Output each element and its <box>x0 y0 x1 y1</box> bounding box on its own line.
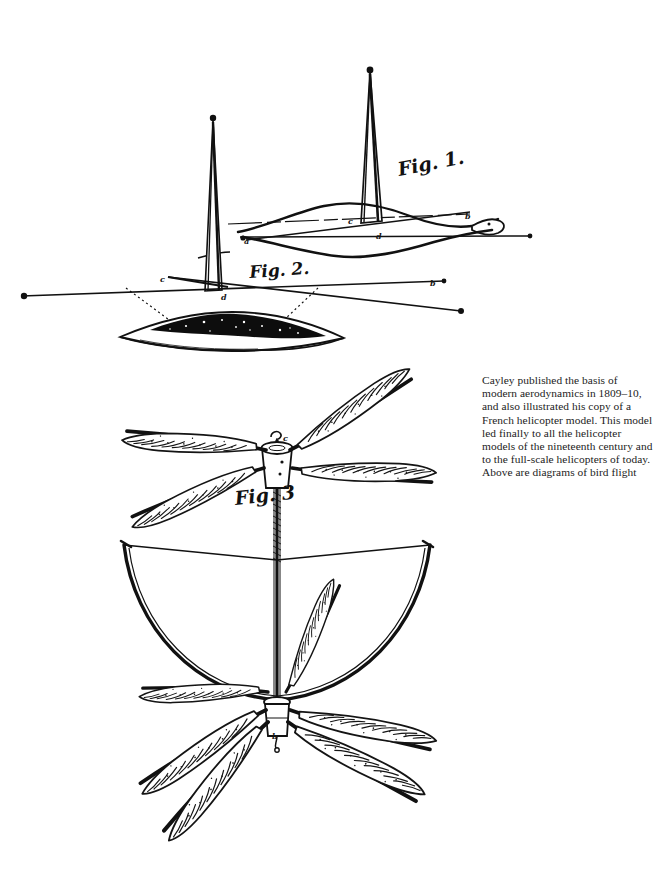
figure-1-group <box>198 67 532 258</box>
figure-2-label: Fig. 2. <box>249 258 310 282</box>
caption-text: Cayley published the basis of modern aer… <box>482 374 654 480</box>
point-label-fig1-a: a <box>244 236 249 246</box>
point-label-fig1-d: d <box>376 231 382 241</box>
fig2-spire-left <box>205 115 222 291</box>
fig1-spire-right <box>361 67 382 223</box>
point-label-fig2-b: b <box>430 278 436 288</box>
point-label-fig2-c: c <box>160 274 165 284</box>
figure-2-group <box>21 115 464 351</box>
plate-page: Fig. 1. Fig. 2. Fig. 3 abcdcbdcb Cayley … <box>0 0 668 896</box>
point-label-fig1-c: c <box>348 216 353 226</box>
point-label-fig1-b: b <box>465 211 471 221</box>
figure-caption: Cayley published the basis of modern aer… <box>482 374 654 480</box>
point-label-fig3-b: b <box>272 731 278 741</box>
point-label-fig2-d: d <box>221 292 227 302</box>
fig2-airfoil-section <box>120 312 344 351</box>
point-label-fig3-c: c <box>283 433 288 443</box>
figure-3-group <box>121 367 437 843</box>
